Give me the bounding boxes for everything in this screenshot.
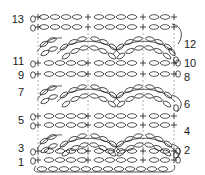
stitch-diagram-svg — [0, 0, 205, 175]
row-label-11: 11 — [2, 56, 24, 67]
row-label-1: 1 — [2, 157, 24, 168]
arch-band-lower — [37, 130, 180, 158]
row-label-9: 9 — [2, 70, 24, 81]
row-label-12: 12 — [184, 39, 204, 50]
row-label-4: 4 — [184, 126, 204, 137]
row-10-stitches — [31, 60, 181, 67]
row-label-10: 10 — [184, 58, 204, 69]
row-9-stitches — [31, 71, 181, 78]
row-2-stitches — [31, 148, 181, 155]
row-label-8: 8 — [184, 72, 204, 83]
row-label-5: 5 — [2, 115, 24, 126]
foundation-chain — [34, 165, 174, 172]
crochet-chart: 13 11 9 7 5 3 1 12 10 8 6 4 2 — [0, 0, 205, 175]
arch-band-upper — [37, 33, 178, 63]
row-1-stitches — [31, 157, 181, 164]
row-label-6: 6 — [184, 99, 204, 110]
row-label-7: 7 — [2, 87, 24, 98]
arch-band-middle — [37, 80, 181, 112]
row-label-3: 3 — [2, 143, 24, 154]
row-5-lower-stitches — [31, 122, 177, 129]
row-5-upper-stitches — [31, 113, 177, 120]
row-label-13: 13 — [2, 14, 24, 25]
row-label-2: 2 — [184, 145, 204, 156]
row-13-stitches — [31, 14, 177, 22]
